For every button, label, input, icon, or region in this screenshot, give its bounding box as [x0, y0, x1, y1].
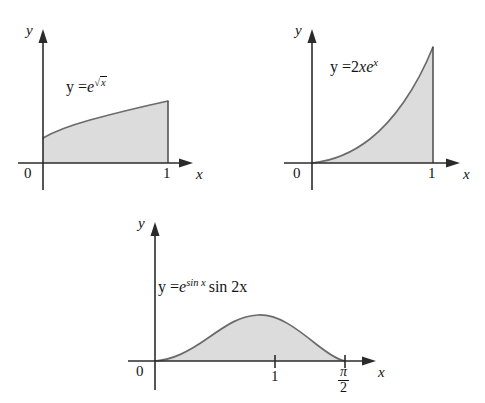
fraction-numerator-pi: π [338, 365, 349, 381]
x-tick-label-2-one: 1 [428, 166, 436, 181]
graph-panel-2: y x 0 1 y =2xex [248, 0, 485, 200]
origin-label-1: 0 [24, 166, 32, 181]
equation-1-radicand: x [100, 76, 107, 88]
equation-2-lhs: y = [330, 58, 351, 75]
math-figure: y x 0 1 y =e√x y x 0 1 y =2xex [0, 0, 485, 403]
y-axis-arrow-1 [39, 29, 48, 43]
x-tick-label-1-one: 1 [163, 166, 171, 181]
y-axis-label-1: y [26, 23, 33, 38]
equation-1: y =e√x [66, 78, 107, 95]
graph-panel-1: y x 0 1 y =e√x [0, 0, 240, 200]
x-axis-arrow-3 [362, 357, 376, 366]
fraction-denominator-2: 2 [338, 381, 349, 396]
equation-3: y =esin xsin 2x [158, 278, 247, 295]
x-axis-label-1: x [196, 167, 203, 182]
panel-3-plot [110, 200, 400, 403]
origin-label-2: 0 [293, 166, 301, 181]
equation-2: y =2xex [330, 58, 378, 75]
x-axis-arrow-2 [446, 159, 460, 168]
equation-2-exponent: x [373, 57, 378, 68]
equation-1-lhs: y = [66, 78, 87, 95]
x-axis-arrow-1 [179, 159, 193, 168]
equation-3-exponent: sin x [186, 277, 206, 288]
equation-3-tail: sin 2x [209, 278, 248, 295]
equation-3-lhs: y = [158, 278, 179, 295]
panel-2-plot [248, 0, 485, 200]
y-axis-label-2: y [295, 23, 302, 38]
origin-label-3: 0 [136, 364, 144, 379]
y-axis-label-3: y [138, 216, 145, 231]
graph-panel-3: y x 0 1 π 2 y =esin xsin 2x [110, 200, 400, 403]
equation-1-exponent: √x [94, 76, 106, 88]
shaded-region-3 [155, 315, 345, 361]
y-axis-arrow-2 [308, 29, 317, 43]
equation-2-coefficient: 2 [351, 58, 359, 75]
shaded-region-1 [43, 101, 168, 163]
panel-1-plot [0, 0, 240, 200]
x-axis-label-3: x [378, 365, 385, 380]
x-tick-label-pi-over-2: π 2 [338, 365, 349, 395]
x-tick-label-3-one: 1 [271, 369, 279, 384]
x-axis-label-2: x [463, 167, 470, 182]
y-axis-arrow-3 [151, 222, 160, 236]
